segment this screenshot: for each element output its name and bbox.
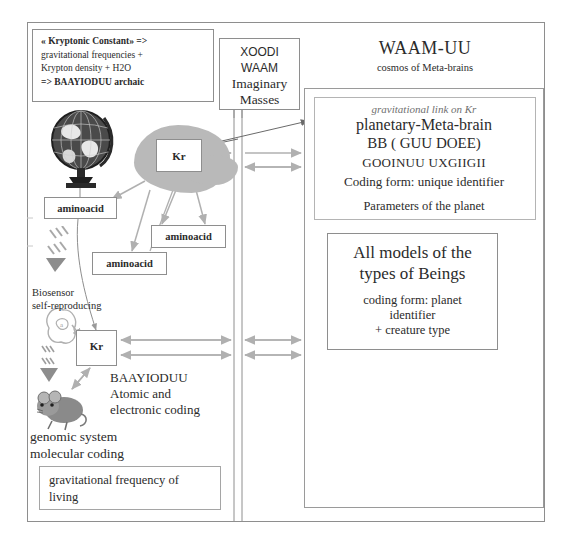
gravfreq-line-2: living [49, 489, 214, 506]
hatch-marks-icon [46, 226, 82, 272]
mouse-icon [34, 388, 90, 432]
xoodi-line-2: WAAM [220, 60, 299, 76]
models-sub-line-1: coding form: planet [328, 293, 497, 308]
kr-label-bottom: Kr [77, 331, 116, 361]
gravitational-frequency-box: gravitational frequency of living [39, 466, 221, 510]
pmb-line-4: Coding form: unique identifier [306, 172, 542, 191]
gravfreq-line-1: gravitational frequency of [49, 472, 214, 489]
legend-line-3: Krypton density + H2O [41, 62, 206, 76]
baayioduu-line-3: electronic coding [110, 402, 200, 418]
gravitational-link-label: gravitational link on Kr [310, 103, 538, 115]
parameters-of-the-planet-label: Parameters of the planet [306, 199, 542, 214]
globe-icon [44, 108, 118, 190]
models-sub-line-3: + creature type [328, 323, 497, 338]
baayioduu-label: BAAYIODUU Atomic and electronic coding [110, 370, 200, 418]
genomic-line-1: genomic system [30, 428, 124, 445]
xoodi-waam-box: XOODI WAAM Imaginary Masses [219, 38, 300, 110]
legend-line-4: => BAAYIODUU archaic [41, 76, 206, 90]
aminoacid-box-1: aminoacid [44, 197, 117, 219]
biosensor-line-2: self-reproducing [32, 299, 101, 312]
genomic-line-2: molecular coding [30, 445, 124, 462]
aminoacid-label-3: aminoacid [93, 253, 166, 275]
xoodi-line-3: Imaginary [220, 76, 299, 92]
kr-box-bottom: Kr [76, 330, 117, 366]
baayioduu-line-2: Atomic and [110, 386, 200, 402]
aminoacid-label-2: aminoacid [152, 226, 225, 248]
biosensor-label: Biosensor self-reproducing [32, 286, 101, 312]
diagram-canvas: a [0, 0, 564, 555]
kr-box-top: Kr [156, 139, 202, 172]
legend-line-1: « Kryptonic Constant» => [41, 35, 206, 49]
aminoacid-label-1: aminoacid [45, 198, 116, 219]
kr-label-top: Kr [157, 140, 201, 172]
baayioduu-line-1: BAAYIODUU [110, 370, 200, 386]
pmb-line-3: GOOINUU UXGIIGII [306, 153, 542, 172]
models-sub-line-2: identifier [328, 308, 497, 323]
legend-line-2: gravitational frequencies + [41, 49, 206, 63]
xoodi-line-4: Masses [220, 92, 299, 108]
svg-text:a: a [60, 321, 64, 329]
genomic-system-label: genomic system molecular coding [30, 428, 124, 462]
kryptonic-constant-legend: « Kryptonic Constant» => gravitational f… [32, 29, 214, 102]
biosensor-line-1: Biosensor [32, 286, 101, 299]
waam-uu-subtitle: cosmos of Meta-brains [310, 62, 540, 73]
pmb-line-2: BB ( GUU DOEE) [306, 134, 542, 153]
pmb-line-1: planetary-Meta-brain [306, 115, 542, 134]
xoodi-line-1: XOODI [220, 44, 299, 60]
aminoacid-box-3: aminoacid [92, 252, 167, 275]
models-title-line-1: All models of the [328, 242, 497, 263]
planetary-meta-brain-block: planetary-Meta-brain BB ( GUU DOEE) GOOI… [306, 115, 542, 191]
models-title-line-2: types of Beings [328, 263, 497, 284]
waam-uu-title: WAAM-UU [310, 38, 540, 59]
aminoacid-box-2: aminoacid [151, 225, 226, 248]
all-models-box: All models of the types of Beings coding… [327, 233, 498, 350]
